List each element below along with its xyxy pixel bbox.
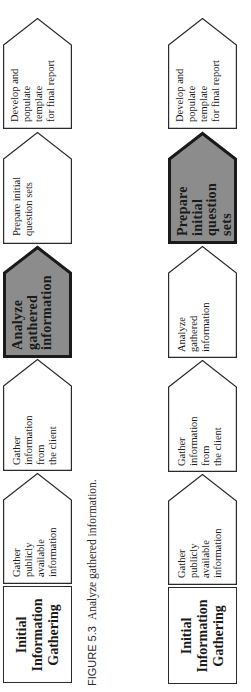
step-gather-public-info: Gather publicly available information (168, 474, 237, 585)
step-label: Develop and populate template for final … (9, 59, 57, 122)
step-label: Analyze gathered information (11, 275, 55, 350)
step-label: Analyze gathered information (176, 291, 212, 352)
step-develop-template: Develop and populate template for final … (168, 18, 237, 129)
step-label: Gather publicly available information (11, 516, 59, 577)
step-label: Gather information from the client (11, 404, 59, 465)
step-label: Gather publicly available information (176, 517, 224, 578)
step-gather-public-info: Gather publicly available information (3, 473, 72, 584)
figure-number: FIGURE 5.3 (86, 626, 98, 686)
phase-title: Initial Information Gathering (179, 599, 227, 672)
step-label: Prepare initial question sets (11, 177, 35, 236)
phase-title-box: Initial Information Gathering (3, 586, 72, 683)
step-gather-client-info: Gather information from the client (3, 359, 72, 471)
step-prepare-question-sets: Prepare initial question sets (3, 132, 72, 244)
step-develop-template: Develop and populate template for final … (3, 18, 72, 129)
step-gather-client-info: Gather information from the client (168, 360, 237, 472)
figure-caption-text: Analyze gathered information. (86, 479, 98, 620)
step-analyze-information: Analyze gathered information (3, 246, 72, 358)
step-label: Develop and populate template for final … (174, 59, 222, 122)
step-label: Prepare initial question sets (176, 175, 234, 236)
phase-title: Initial Information Gathering (14, 598, 62, 671)
step-prepare-question-sets: Prepare initial question sets (168, 132, 237, 244)
phase-title-box: Initial Information Gathering (168, 587, 237, 684)
figure-caption: FIGURE 5.3Analyze gathered information. (86, 479, 98, 686)
step-label: Gather information from the client (176, 405, 224, 466)
step-analyze-information: Analyze gathered information (168, 246, 237, 358)
